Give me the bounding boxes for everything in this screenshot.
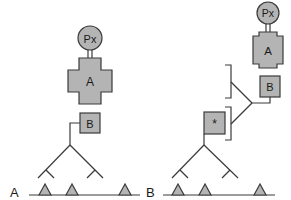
px-node-a: Px [78, 26, 102, 50]
b-connector [252, 97, 270, 103]
bracket-lower [225, 107, 231, 140]
triangle [39, 184, 51, 195]
triangle [172, 184, 184, 195]
cross-label: A [86, 75, 94, 89]
tree-a [38, 145, 103, 178]
px-label: Px [84, 33, 97, 45]
tree-left-sub [46, 170, 54, 178]
tree-right-branch [70, 145, 103, 178]
cross-node-a: A [253, 32, 283, 68]
tree-right-branch [204, 145, 238, 178]
panel-label-b: B [146, 185, 155, 200]
star-node: * [204, 112, 225, 134]
px-node-b: Px [257, 2, 279, 24]
tree-b [172, 145, 238, 178]
merge-line-lower [231, 103, 252, 124]
tree-left-branch [172, 145, 204, 178]
merge-line-upper [231, 82, 252, 103]
tree-left-branch [38, 145, 70, 178]
box-label: B [266, 81, 273, 93]
panel-label-a: A [10, 185, 19, 200]
diagram-canvas: Px A B A [0, 0, 291, 200]
panel-b: Px A B * [146, 2, 283, 200]
triangle [254, 184, 266, 195]
tree-right-sub [87, 170, 95, 178]
triangle [66, 184, 78, 195]
bracket-upper [225, 65, 231, 98]
px-label: Px [262, 7, 275, 19]
box-node-b: B [260, 76, 280, 97]
stem-line [70, 123, 80, 145]
tree-right-sub [222, 170, 230, 178]
star-label: * [212, 117, 217, 131]
box-label: B [86, 118, 93, 130]
cross-node-a: A [68, 58, 112, 104]
panel-a: Px A B A [10, 26, 140, 200]
tree-left-sub [180, 170, 188, 178]
box-node-b: B [80, 113, 100, 133]
triangle [119, 184, 131, 195]
triangle [199, 184, 211, 195]
cross-label: A [264, 45, 272, 57]
